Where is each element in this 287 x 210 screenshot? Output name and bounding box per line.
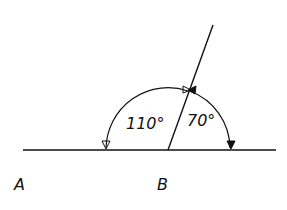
- angle-diagram: 110° 70° A B: [0, 0, 287, 210]
- diagram-canvas: 110° 70° A B: [0, 0, 287, 210]
- angle-label-110: 110°: [126, 114, 165, 133]
- angle-label-70: 70°: [187, 111, 215, 130]
- arrowhead-right: [227, 141, 235, 149]
- point-label-a: A: [13, 175, 25, 194]
- point-label-b: B: [157, 175, 168, 194]
